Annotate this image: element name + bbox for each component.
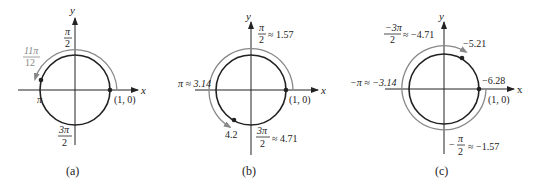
start-point: [108, 88, 113, 93]
bottom-label-den: 2: [458, 146, 463, 157]
top-label-den: 2: [390, 34, 395, 45]
bottom-label-num: π: [458, 133, 464, 144]
x-axis-label: x: [140, 84, 146, 96]
top-label-den: 2: [65, 38, 70, 49]
point-label: (1, 0): [488, 94, 510, 106]
end-point: [39, 78, 44, 83]
top-label-approx: ≈ 1.57: [268, 29, 294, 40]
y-axis-label: y: [69, 4, 75, 16]
end-point: [460, 56, 465, 61]
unit-circle-figure: y x π 2 π 3π 2 (1, 0) 11π 12 (a) y x π 2…: [0, 0, 539, 188]
bottom-label-approx: ≈ 4.71: [272, 133, 298, 144]
right-label: −6.28: [482, 75, 505, 86]
bottom-label-prefix: −: [449, 139, 455, 150]
top-label-num: π: [65, 26, 71, 37]
caption: (c): [435, 164, 448, 178]
point-label: (1, 0): [114, 94, 136, 106]
start-point: [284, 88, 289, 93]
bottom-label-approx: ≈ −1.57: [468, 141, 499, 152]
arc-label-den: 12: [25, 57, 35, 68]
panel-a: y x π 2 π 3π 2 (1, 0) 11π 12 (a): [18, 4, 146, 178]
panel-b: y x π 2 ≈ 1.57 π ≈ 3.14 3π 2 ≈ 4.71 (1, …: [178, 10, 326, 178]
left-label: π ≈ 3.14: [178, 78, 211, 89]
panel-c: y x −3π 2 ≈ −4.71 −5.21 −π ≈ −3.14 −6.28…: [350, 10, 523, 178]
bottom-label-num: 3π: [256, 125, 268, 136]
bottom-label-den: 2: [260, 138, 265, 149]
arc-label: −5.21: [463, 38, 486, 49]
y-axis-label: y: [245, 10, 251, 22]
arc-label-num: 11π: [24, 45, 39, 56]
top-label-approx: ≈ −4.71: [403, 29, 434, 40]
point-label: (1, 0): [289, 94, 311, 106]
x-axis-label: x: [320, 84, 326, 96]
left-label: −π ≈ −3.14: [350, 77, 397, 88]
top-label-num: π: [259, 22, 265, 33]
end-point: [232, 118, 237, 123]
arc-label: 4.2: [225, 129, 238, 140]
bottom-label-den: 2: [62, 137, 67, 148]
top-label-num: −3π: [385, 22, 403, 33]
caption: (b): [242, 164, 256, 178]
y-axis-label: y: [438, 10, 444, 22]
caption: (a): [66, 164, 79, 178]
bottom-label-num: 3π: [58, 124, 70, 135]
x-axis-label: x: [517, 83, 523, 95]
top-label-den: 2: [259, 34, 264, 45]
start-point: [477, 87, 482, 92]
